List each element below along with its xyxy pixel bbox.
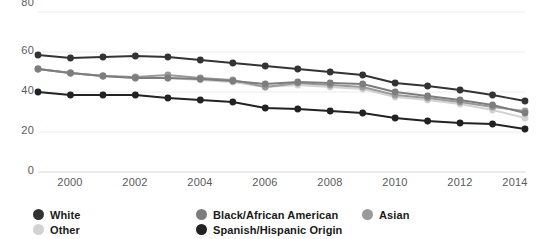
data-point bbox=[327, 108, 334, 115]
legend-label: Black/African American bbox=[213, 209, 338, 221]
data-point bbox=[359, 81, 366, 88]
data-point bbox=[522, 110, 529, 117]
legend-label: Spanish/Hispanic Origin bbox=[213, 224, 342, 236]
data-point bbox=[67, 70, 74, 77]
data-point bbox=[132, 53, 139, 60]
data-point bbox=[132, 92, 139, 99]
legend-marker-icon bbox=[362, 209, 373, 220]
data-point bbox=[164, 95, 171, 102]
data-point bbox=[392, 115, 399, 122]
data-point bbox=[197, 76, 204, 83]
data-point bbox=[100, 73, 107, 80]
data-point bbox=[197, 57, 204, 64]
data-point bbox=[229, 78, 236, 85]
line-chart: 80 60 40 20 0 2000 2002 2004 2006 2008 2… bbox=[0, 0, 536, 239]
data-point bbox=[457, 120, 464, 127]
data-point bbox=[457, 87, 464, 94]
legend-marker-icon bbox=[33, 224, 44, 235]
data-point bbox=[392, 89, 399, 96]
series-line bbox=[38, 69, 525, 111]
data-point bbox=[424, 118, 431, 125]
data-point bbox=[327, 69, 334, 76]
data-point bbox=[262, 105, 269, 112]
legend-label: Other bbox=[50, 224, 80, 236]
data-point bbox=[522, 98, 529, 105]
data-point bbox=[262, 63, 269, 70]
legend-marker-icon bbox=[196, 224, 207, 235]
data-point bbox=[100, 92, 107, 99]
data-point bbox=[294, 79, 301, 86]
data-point bbox=[67, 92, 74, 99]
data-point bbox=[197, 97, 204, 104]
data-point bbox=[294, 106, 301, 113]
data-point bbox=[359, 72, 366, 79]
data-point bbox=[164, 54, 171, 61]
data-point bbox=[424, 93, 431, 100]
data-point bbox=[424, 83, 431, 90]
data-point bbox=[35, 52, 42, 59]
data-point bbox=[457, 97, 464, 104]
data-point bbox=[392, 80, 399, 87]
legend-item-other[interactable]: Other bbox=[33, 224, 80, 236]
data-point bbox=[489, 92, 496, 99]
legend-item-asian[interactable]: Asian bbox=[362, 209, 409, 221]
data-point bbox=[294, 66, 301, 73]
gridlines bbox=[38, 12, 525, 132]
data-point bbox=[229, 60, 236, 67]
data-point bbox=[132, 75, 139, 82]
legend-item-spanish-hispanic-origin[interactable]: Spanish/Hispanic Origin bbox=[196, 224, 342, 236]
data-point bbox=[327, 80, 334, 87]
data-point bbox=[100, 54, 107, 61]
legend-item-white[interactable]: White bbox=[33, 209, 80, 221]
data-point bbox=[67, 55, 74, 62]
data-point bbox=[35, 66, 42, 73]
legend-marker-icon bbox=[196, 209, 207, 220]
data-point bbox=[359, 110, 366, 117]
chart-legend: White Other Black/African American Spani… bbox=[0, 203, 536, 239]
legend-label: Asian bbox=[379, 209, 409, 221]
data-point bbox=[164, 75, 171, 82]
data-point bbox=[489, 102, 496, 109]
legend-item-black-african-american[interactable]: Black/African American bbox=[196, 209, 338, 221]
data-point bbox=[489, 121, 496, 128]
series-line bbox=[38, 69, 525, 113]
series-line bbox=[38, 92, 525, 129]
legend-label: White bbox=[50, 209, 80, 221]
data-point bbox=[35, 89, 42, 96]
data-point bbox=[262, 81, 269, 88]
legend-marker-icon bbox=[33, 209, 44, 220]
data-point bbox=[522, 126, 529, 133]
data-point bbox=[229, 99, 236, 106]
